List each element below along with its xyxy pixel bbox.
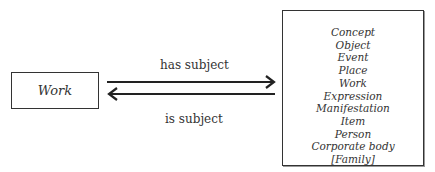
list-item: Expression xyxy=(283,90,423,103)
arrow-right-icon xyxy=(107,76,274,88)
list-item: Concept xyxy=(283,26,423,39)
list-item: Corporate body xyxy=(283,140,423,153)
list-item: Person xyxy=(283,128,423,141)
list-item: Work xyxy=(283,77,423,90)
list-item: Manifestation xyxy=(283,102,423,115)
list-item: [Family] xyxy=(283,153,423,166)
list-item: Item xyxy=(283,115,423,128)
list-item: Place xyxy=(283,64,423,77)
list-item: Object xyxy=(283,39,423,52)
subject-entities-box: Concept Object Event Place Work Expressi… xyxy=(282,10,424,166)
list-item: Event xyxy=(283,51,423,64)
subject-entity-list: Concept Object Event Place Work Expressi… xyxy=(283,26,423,166)
arrow-left-icon xyxy=(109,88,275,100)
